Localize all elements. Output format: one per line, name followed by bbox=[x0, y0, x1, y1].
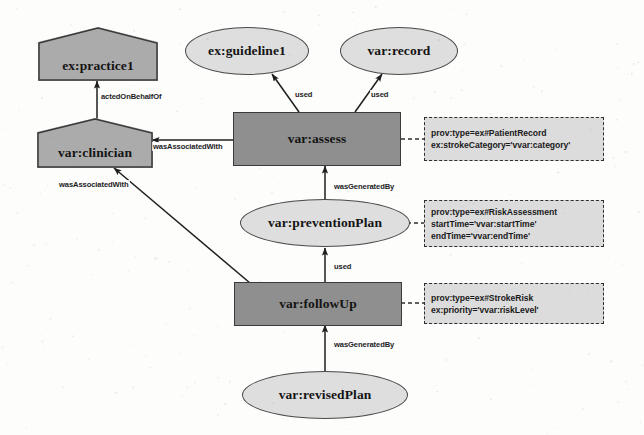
edge-label-wasGeneratedBy-revised: wasGeneratedBy bbox=[333, 340, 395, 349]
annotation-line: endTime='vvar:endTime' bbox=[431, 230, 597, 242]
node-ex-guideline1[interactable]: ex:guideline1 bbox=[185, 27, 309, 75]
node-label: var:revisedPlan bbox=[279, 388, 372, 402]
node-label: ex:guideline1 bbox=[208, 44, 286, 58]
annotation-line: startTime='vvar:startTime' bbox=[431, 218, 597, 230]
node-label: var:preventionPlan bbox=[268, 216, 382, 230]
node-var-record[interactable]: var:record bbox=[340, 27, 458, 75]
node-label: var:clinician bbox=[58, 146, 132, 160]
node-label: var:record bbox=[368, 44, 431, 58]
diagram-canvas: ex:practice1 ex:guideline1 var:record va… bbox=[0, 0, 644, 435]
edge-label-wasAssociatedWith-bottom: wasAssociatedWith bbox=[58, 180, 130, 189]
annotation-line: prov:type=ex#PatientRecord bbox=[431, 127, 597, 139]
node-var-revisedPlan[interactable]: var:revisedPlan bbox=[242, 371, 408, 419]
node-label: ex:practice1 bbox=[62, 59, 134, 73]
annotation-line: ex:strokeCategory='vvar:category' bbox=[431, 139, 597, 151]
annotation-box-stroke-risk[interactable]: prov:type=ex#StrokeRisk ex:priority='vva… bbox=[424, 283, 604, 324]
annotation-line: prov:type=ex#RiskAssessment bbox=[431, 206, 597, 218]
edge-label-wasGeneratedBy-plan: wasGeneratedBy bbox=[333, 182, 395, 191]
node-var-assess[interactable]: var:assess bbox=[233, 112, 401, 166]
edge-label-used-record: used bbox=[370, 90, 389, 99]
annotation-box-risk-assessment[interactable]: prov:type=ex#RiskAssessment startTime='v… bbox=[424, 200, 604, 247]
node-var-followUp[interactable]: var:followUp bbox=[234, 282, 402, 326]
node-label: var:followUp bbox=[279, 297, 357, 311]
annotation-box-patient-record[interactable]: prov:type=ex#PatientRecord ex:strokeCate… bbox=[424, 117, 604, 161]
edge-label-actedOnBehalfOf: actedOnBehalfOf bbox=[100, 92, 163, 101]
edge-wasAssociatedWith-bottom bbox=[114, 168, 250, 283]
node-var-preventionPlan[interactable]: var:preventionPlan bbox=[240, 199, 410, 247]
annotation-line: ex:priority='vvar:riskLevel' bbox=[431, 304, 597, 316]
annotation-line: prov:type=ex#StrokeRisk bbox=[431, 292, 597, 304]
edge-label-used-guideline: used bbox=[294, 90, 313, 99]
node-ex-practice1[interactable]: ex:practice1 bbox=[38, 27, 158, 81]
node-label: var:assess bbox=[288, 132, 347, 146]
node-var-clinician[interactable]: var:clinician bbox=[37, 118, 153, 168]
edge-label-wasAssociatedWith-top: wasAssociatedWith bbox=[152, 142, 224, 151]
edge-label-used-plan: used bbox=[333, 262, 352, 271]
